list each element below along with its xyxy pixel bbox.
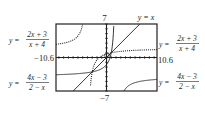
equation-label-left-upper: y = 2x + 3 x + 4 (8, 30, 49, 49)
identity-line-label: y = x (137, 13, 155, 22)
svg-text:x + 4: x + 4 (178, 44, 195, 53)
svg-text:2x + 3: 2x + 3 (27, 30, 47, 39)
equation-label-right-lower: y = 4x − 3 2 − x (158, 72, 199, 91)
svg-text:2x + 3: 2x + 3 (177, 34, 197, 43)
svg-text:y =: y = (158, 78, 169, 87)
svg-text:2 − x: 2 − x (179, 82, 196, 91)
xmax-label: 10.6 (158, 55, 173, 65)
svg-text:x + 4: x + 4 (28, 40, 45, 49)
ymin-label: −7 (100, 93, 110, 103)
svg-text:y =: y = (158, 40, 169, 49)
graphing-calculator-figure: 7 −7 −10.6 10.6 y = x y = 2x + 3 x + 4 y… (0, 0, 205, 113)
svg-text:y =: y = (8, 79, 19, 88)
ymax-label: 7 (102, 13, 107, 23)
equation-label-right-upper: y = 2x + 3 x + 4 (158, 34, 199, 53)
svg-text:2 − x: 2 − x (29, 83, 46, 92)
svg-text:y =: y = (8, 36, 19, 45)
equation-label-left-lower: y = 4x − 3 2 − x (8, 73, 49, 92)
xmin-label: −10.6 (34, 53, 54, 63)
svg-text:4x − 3: 4x − 3 (177, 72, 197, 81)
svg-text:4x − 3: 4x − 3 (27, 73, 47, 82)
